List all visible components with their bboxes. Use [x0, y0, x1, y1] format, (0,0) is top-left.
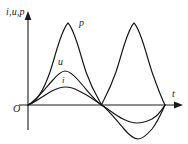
- plot-canvas: [0, 0, 188, 144]
- y-axis-label: i,u,p: [6, 7, 25, 17]
- x-axis-label: t: [172, 89, 175, 99]
- origin-label: O: [13, 104, 20, 114]
- curve-label-power: p: [79, 18, 84, 28]
- curve-label-voltage: u: [58, 57, 63, 67]
- curve-label-current: i: [62, 76, 65, 85]
- x-axis-arrowhead: [174, 102, 183, 109]
- waveform-figure: i,u,p t O p u i: [0, 0, 188, 144]
- y-axis-arrowhead: [25, 11, 32, 20]
